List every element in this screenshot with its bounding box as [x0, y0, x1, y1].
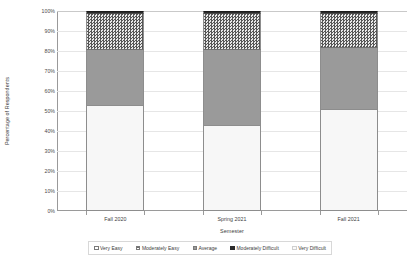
bar-fall-2021[interactable] — [320, 11, 378, 211]
y-axis-tick-label: 50% — [13, 108, 55, 114]
y-axis-tick-label: 90% — [13, 28, 55, 34]
x-axis-tick-mark — [203, 211, 204, 215]
bar-segment-moderately-difficult[interactable] — [203, 13, 261, 49]
x-axis-tick-mark — [144, 211, 145, 215]
legend-label: Moderately Easy — [142, 245, 179, 251]
bar-segment-very-difficult[interactable] — [320, 11, 378, 13]
bar-segment-moderately-difficult[interactable] — [86, 13, 144, 49]
bar-segment-very-difficult[interactable] — [86, 11, 144, 13]
bar-segment-very-easy[interactable] — [320, 109, 378, 211]
bar-segment-very-easy[interactable] — [86, 105, 144, 211]
legend-swatch-icon — [136, 246, 141, 251]
bar-segment-average[interactable] — [86, 49, 144, 105]
bar-segment-very-difficult[interactable] — [203, 11, 261, 13]
legend-swatch-icon — [193, 246, 198, 251]
stacked-bar-chart: Percentage of Respondents 0%10%20%30%40%… — [0, 0, 418, 265]
legend-label: Average — [199, 245, 218, 251]
y-axis-tick-labels: 0%10%20%30%40%50%60%70%80%90%100% — [0, 0, 55, 265]
legend-label: Very Easy — [100, 245, 123, 251]
bar-fall-2020[interactable] — [86, 11, 144, 211]
legend-item-moderately-difficult[interactable]: Moderately Difficult — [230, 245, 278, 251]
plot-area — [57, 11, 407, 211]
legend-label: Very Difficult — [298, 245, 326, 251]
bar-segment-average[interactable] — [320, 47, 378, 109]
legend-item-very-easy[interactable]: Very Easy — [94, 245, 123, 251]
y-axis-tick-label: 60% — [13, 88, 55, 94]
legend-label: Moderately Difficult — [236, 245, 278, 251]
x-axis-tick-mark — [261, 211, 262, 215]
x-axis-title: Semester — [57, 228, 407, 234]
legend-swatch-icon — [230, 246, 235, 251]
x-axis-tick-label: Fall 2021 — [294, 216, 404, 222]
y-axis-tick-label: 80% — [13, 48, 55, 54]
x-axis-tick-mark — [378, 211, 379, 215]
bar-spring-2021[interactable] — [203, 11, 261, 211]
x-axis-tick-mark — [320, 211, 321, 215]
legend-item-average[interactable]: Average — [193, 245, 218, 251]
y-axis-tick-label: 30% — [13, 148, 55, 154]
y-axis-tick-label: 20% — [13, 168, 55, 174]
y-axis-tick-label: 0% — [13, 208, 55, 214]
x-axis-tick-label: Fall 2020 — [60, 216, 170, 222]
legend-swatch-icon — [292, 246, 297, 251]
bar-segment-average[interactable] — [203, 49, 261, 125]
legend-item-very-difficult[interactable]: Very Difficult — [292, 245, 326, 251]
bar-segment-moderately-difficult[interactable] — [320, 13, 378, 47]
bar-segment-very-easy[interactable] — [203, 125, 261, 211]
y-axis-tick-label: 40% — [13, 128, 55, 134]
y-axis-tick-label: 100% — [13, 8, 55, 14]
x-axis-tick-label: Spring 2021 — [177, 216, 287, 222]
chart-legend: Very EasyModerately EasyAverageModeratel… — [88, 241, 332, 255]
legend-item-moderately-easy[interactable]: Moderately Easy — [136, 245, 179, 251]
x-axis-tick-mark — [86, 211, 87, 215]
y-axis-tick-label: 10% — [13, 188, 55, 194]
legend-swatch-icon — [94, 246, 99, 251]
y-axis-tick-label: 70% — [13, 68, 55, 74]
